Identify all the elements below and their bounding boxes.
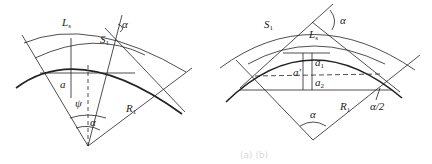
label-alpha-center: α [310,108,316,120]
label-R1: R1 [125,102,137,116]
label-a1: a1 [315,56,325,70]
arc-S1 [35,43,145,58]
label-Ls: Ls [308,28,318,42]
label-alpha-center: α [90,116,96,128]
alpha-center-arc [300,122,326,126]
label-alpha-top: α [122,18,128,30]
label-Ls: Ls [61,16,71,30]
figure-caption: (a) (b) [240,150,430,160]
right-radial-line [88,68,192,146]
right-radial-line [313,55,420,140]
label-a2: a2 [315,76,325,90]
left-radial-line [22,35,88,146]
label-psi: ψ [75,97,82,109]
left-radial-line [236,60,313,140]
label-S1: S1 [100,33,110,47]
label-S1: S1 [264,18,274,32]
label-a-prime: a' [293,66,302,78]
label-R1: R1 [339,100,351,114]
label-alpha-top: α [340,14,346,26]
left-track-curve [16,69,182,114]
right-tangent [312,22,400,92]
right-diagram [220,4,420,140]
diagram-canvas: Ls S1 α a ψ α R1 S1 α Ls a' a1 a2 R1 α/2… [0,0,432,164]
label-half-alpha: α/2 [370,100,385,112]
alpha-top-arc [330,10,335,30]
right-track-curve [226,60,402,102]
label-a: a [60,78,66,90]
